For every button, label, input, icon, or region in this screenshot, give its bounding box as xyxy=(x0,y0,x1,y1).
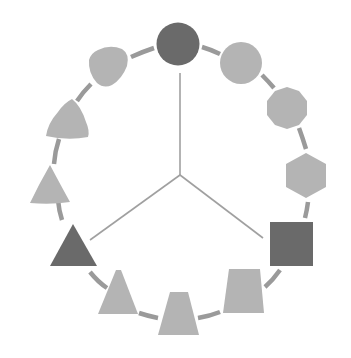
curved-triangle-small xyxy=(30,165,70,204)
ring-segment xyxy=(299,128,306,149)
ring-segment xyxy=(202,47,220,54)
trapezoid-narrow xyxy=(98,270,138,314)
trapezoid-wide xyxy=(223,269,264,313)
hub-spokes xyxy=(90,73,263,240)
hub-point xyxy=(179,174,181,176)
ring-segment xyxy=(139,313,158,318)
ring-segment xyxy=(198,312,220,318)
ring-segment xyxy=(131,48,154,57)
ring-segment xyxy=(265,270,280,287)
circle-dark xyxy=(157,23,200,66)
ring-segment xyxy=(262,75,274,88)
ring-segment xyxy=(305,202,308,218)
decagon xyxy=(267,87,307,129)
square-dark xyxy=(270,222,313,266)
diagram-canvas xyxy=(0,0,351,358)
circle-light xyxy=(220,42,262,84)
ring-segment xyxy=(54,139,59,164)
ring-connectors xyxy=(54,47,308,318)
ring-segment xyxy=(77,84,91,101)
spoke-to-square xyxy=(180,175,263,238)
ring-segment xyxy=(90,272,107,288)
hexagon xyxy=(286,153,326,198)
trapezoid-mid xyxy=(158,292,199,335)
rounded-blob xyxy=(89,47,128,87)
shape-morph-cycle-diagram xyxy=(0,0,351,358)
spoke-to-triangle xyxy=(90,175,180,240)
curved-triangle-large xyxy=(46,99,89,139)
triangle-dark xyxy=(50,224,97,266)
